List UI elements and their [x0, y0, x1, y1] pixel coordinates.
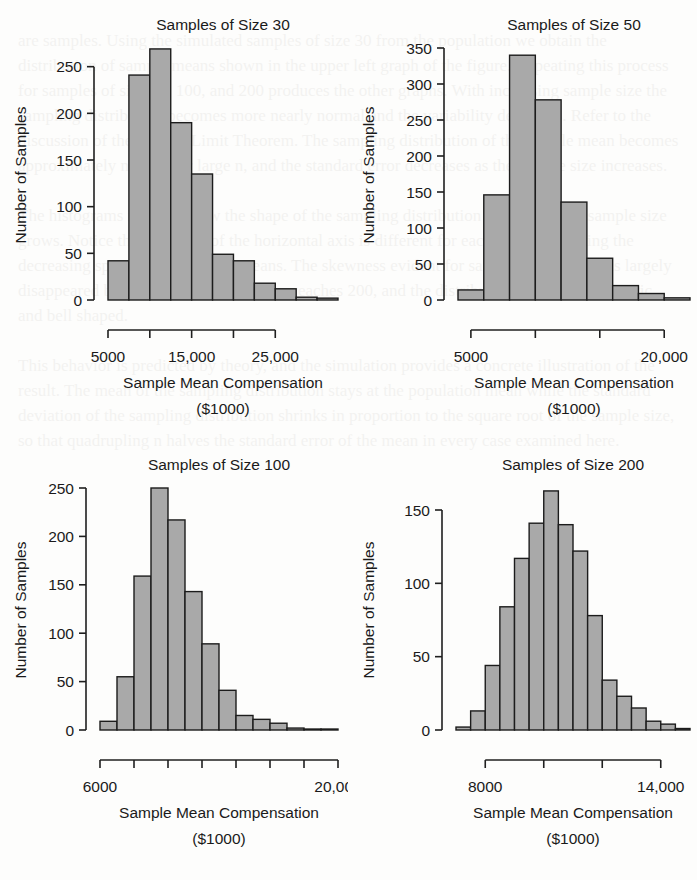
y-axis-tick-label: 150: [404, 502, 430, 519]
y-axis-tick-label: 100: [48, 625, 74, 642]
y-axis-tick-label: 0: [65, 722, 74, 739]
y-axis-tick-label: 50: [415, 256, 433, 273]
x-axis-label-units: ($1000): [547, 400, 600, 417]
y-axis-tick-label: 150: [48, 576, 74, 593]
x-axis-tick-label: 25,000: [252, 348, 300, 365]
histogram-bar: [317, 298, 338, 300]
histogram-bar: [638, 294, 664, 300]
histogram-bar: [213, 254, 234, 300]
histogram-bar: [456, 727, 471, 730]
histogram-bar: [632, 708, 647, 730]
y-axis-tick-label: 250: [48, 480, 74, 497]
histogram-bar: [287, 728, 304, 730]
histogram-svg-size-200: Samples of Size 200050100150800014,000Sa…: [348, 440, 697, 880]
y-axis-tick-label: 50: [413, 648, 431, 665]
y-axis-tick-label: 50: [65, 245, 83, 262]
histogram-bar: [233, 261, 254, 300]
chart-title: Samples of Size 200: [502, 456, 645, 473]
y-axis-tick-label: 0: [73, 292, 82, 309]
histogram-bar: [129, 75, 150, 300]
y-axis-tick-label: 200: [48, 528, 74, 545]
x-axis-tick-label: 20,000: [641, 348, 689, 365]
y-axis-label: Number of Samples: [360, 106, 377, 243]
histogram-bar: [219, 690, 236, 730]
x-axis-tick-label: 5000: [454, 348, 489, 365]
histogram-bar: [100, 721, 117, 730]
x-axis: 500020,000: [454, 330, 689, 365]
panel-size-200: Samples of Size 200050100150800014,000Sa…: [348, 440, 697, 880]
y-axis-label: Number of Samples: [360, 541, 377, 678]
x-axis-label-units: ($1000): [196, 400, 249, 417]
y-axis: 050100150: [404, 502, 442, 739]
histogram-bar: [117, 677, 134, 730]
histogram-svg-size-50: Samples of Size 500501001502002503003505…: [348, 0, 697, 440]
histogram-bar: [484, 195, 510, 300]
histogram-bar: [254, 283, 275, 300]
histogram-bar: [485, 665, 500, 730]
histogram-bar: [664, 298, 690, 300]
x-axis-tick-label: 6000: [83, 778, 118, 795]
histogram-figure-grid: Samples of Size 30050100150200250500015,…: [0, 0, 697, 880]
histogram-bar: [515, 558, 530, 730]
histogram-bar: [617, 696, 632, 730]
histogram-bar: [561, 202, 587, 300]
histogram-bars: [108, 49, 338, 300]
x-axis-tick-label: 15,000: [168, 348, 216, 365]
y-axis: 050100150200250: [48, 480, 86, 739]
panel-size-100: Samples of Size 100050100150200250600020…: [0, 440, 348, 880]
histogram-bars: [456, 491, 690, 730]
histogram-bar: [253, 719, 270, 730]
x-axis-tick-label: 5000: [91, 348, 126, 365]
x-axis: 500015,00025,000: [91, 330, 300, 365]
x-axis-label-units: ($1000): [192, 830, 245, 847]
histogram-bar: [529, 523, 544, 730]
chart-title: Samples of Size 30: [156, 16, 290, 33]
x-axis-tick-label: 8000: [468, 778, 503, 795]
histogram-bar: [573, 551, 588, 730]
histogram-bar: [321, 729, 338, 730]
y-axis-tick-label: 100: [56, 198, 82, 215]
chart-title: Samples of Size 100: [148, 456, 291, 473]
y-axis-label: Number of Samples: [12, 106, 29, 243]
histogram-bar: [675, 729, 690, 730]
x-axis-label: Sample Mean Compensation: [123, 374, 323, 391]
histogram-bar: [613, 286, 639, 300]
histogram-bar: [236, 715, 253, 730]
histogram-bar: [458, 290, 484, 300]
histogram-bar: [185, 592, 202, 730]
histogram-bar: [535, 100, 561, 300]
y-axis-tick-label: 200: [406, 148, 432, 165]
y-axis-tick-label: 50: [57, 673, 75, 690]
panel-size-30: Samples of Size 30050100150200250500015,…: [0, 0, 348, 440]
histogram-bar: [500, 607, 515, 730]
x-axis-tick-label: 20,000: [314, 778, 348, 795]
histogram-bar: [151, 488, 168, 730]
histogram-bar: [558, 525, 573, 730]
histogram-bar: [544, 491, 559, 730]
panel-size-50: Samples of Size 500501001502002503003505…: [348, 0, 697, 440]
histogram-bars: [100, 488, 338, 730]
y-axis-tick-label: 150: [56, 152, 82, 169]
chart-title: Samples of Size 50: [507, 16, 641, 33]
histogram-bar: [510, 55, 536, 300]
x-axis-label-units: ($1000): [546, 830, 599, 847]
histogram-bars: [458, 55, 690, 300]
histogram-bar: [602, 680, 617, 730]
y-axis-tick-label: 150: [406, 184, 432, 201]
x-axis-label: Sample Mean Compensation: [119, 804, 319, 821]
histogram-bar: [304, 729, 321, 730]
histogram-bar: [168, 520, 185, 730]
y-axis: 050100150200250300350: [406, 40, 444, 309]
y-axis: 050100150200250: [56, 58, 94, 308]
histogram-bar: [192, 174, 213, 300]
y-axis-label: Number of Samples: [12, 541, 29, 678]
x-axis-label: Sample Mean Compensation: [474, 374, 674, 391]
histogram-bar: [471, 711, 486, 730]
y-axis-tick-label: 250: [56, 58, 82, 75]
histogram-bar: [270, 723, 287, 730]
histogram-bar: [588, 616, 603, 730]
y-axis-tick-label: 300: [406, 76, 432, 93]
y-axis-tick-label: 200: [56, 105, 82, 122]
histogram-bar: [134, 576, 151, 730]
x-axis: 600020,000: [83, 760, 348, 795]
